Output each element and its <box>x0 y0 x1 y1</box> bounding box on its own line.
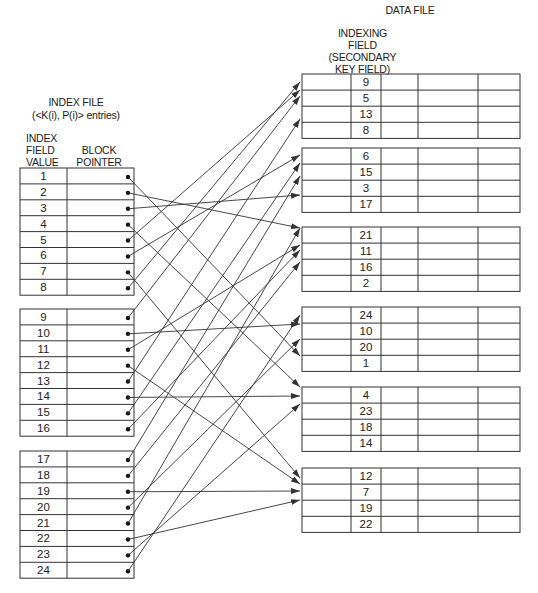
pointer-arrow <box>128 245 300 350</box>
record-key-value: 14 <box>360 437 373 449</box>
data-file-blocks: 951386153172111162241020142318141271922 <box>302 74 520 532</box>
data-block: 95138 <box>302 74 520 138</box>
index-field-value: 1 <box>40 170 46 182</box>
record-key-value: 7 <box>363 486 369 498</box>
index-field-value: 5 <box>40 234 46 246</box>
index-field-value: 24 <box>37 564 50 576</box>
pointer-arrow <box>128 119 300 382</box>
pointer-arrow <box>128 193 300 228</box>
index-field-value: 20 <box>37 501 50 513</box>
record-key-value: 24 <box>360 309 373 321</box>
pointer-arrow <box>128 396 300 397</box>
record-key-value: 17 <box>360 198 373 210</box>
record-key-value: 21 <box>360 229 373 241</box>
pointer-arrow <box>128 250 300 429</box>
data-block: 2111162 <box>302 227 520 291</box>
index-field-value: 15 <box>37 406 50 418</box>
pointer-arrow <box>128 82 300 288</box>
index-field-value: 7 <box>40 265 46 277</box>
index-field-value: 21 <box>37 517 50 529</box>
index-field-value: 19 <box>37 485 50 497</box>
record-key-value: 6 <box>363 150 369 162</box>
record-key-value: 13 <box>360 108 373 120</box>
record-key-value: 10 <box>360 325 373 337</box>
record-key-value: 22 <box>360 518 373 530</box>
record-key-value: 11 <box>360 245 372 257</box>
index-field-value: 14 <box>37 390 50 402</box>
pointer-arrow <box>128 155 300 256</box>
pointer-arrow <box>128 491 300 492</box>
secondary-index-diagram: 123456789101112131415161718192021222324 … <box>0 0 538 593</box>
record-key-value: 15 <box>360 166 373 178</box>
pointer-arrow <box>128 225 300 387</box>
index-field-value: 6 <box>40 249 46 261</box>
record-key-value: 8 <box>363 124 369 136</box>
index-field-value: 16 <box>37 422 50 434</box>
index-field-value: 12 <box>37 359 50 371</box>
record-key-value: 2 <box>363 277 369 289</box>
record-key-value: 20 <box>360 341 373 353</box>
record-key-value: 3 <box>363 182 369 194</box>
record-key-value: 16 <box>360 261 373 273</box>
index-block: 910111213141516 <box>20 309 134 436</box>
record-key-value: 5 <box>363 92 369 104</box>
data-block: 615317 <box>302 148 520 212</box>
pointer-arrow <box>128 339 300 508</box>
record-key-value: 18 <box>360 421 373 433</box>
index-field-value: 8 <box>40 281 46 293</box>
record-key-value: 1 <box>363 357 369 369</box>
index-field-value: 23 <box>37 548 50 560</box>
index-field-value: 11 <box>38 343 50 355</box>
record-key-value: 19 <box>360 502 373 514</box>
index-field-value: 9 <box>40 311 46 323</box>
data-block: 1271922 <box>302 468 520 532</box>
index-block: 1718192021222324 <box>20 451 134 578</box>
index-field-value: 3 <box>40 202 46 214</box>
record-key-value: 12 <box>360 470 373 482</box>
record-key-value: 23 <box>360 405 373 417</box>
pointer-arrows <box>128 82 300 571</box>
index-field-value: 10 <box>37 327 50 339</box>
pointer-arrow <box>128 366 300 484</box>
index-block: 12345678 <box>20 168 134 295</box>
index-field-value: 22 <box>37 532 50 544</box>
pointer-arrow <box>128 176 300 460</box>
data-block: 4231814 <box>302 387 520 451</box>
record-key-value: 9 <box>363 76 369 88</box>
data-block: 2410201 <box>302 307 520 371</box>
record-key-value: 4 <box>363 389 370 401</box>
index-field-value: 18 <box>37 469 50 481</box>
index-field-value: 17 <box>37 453 50 465</box>
index-field-value: 4 <box>40 218 47 230</box>
index-field-value: 13 <box>37 375 50 387</box>
index-file-tables: 123456789101112131415161718192021222324 <box>20 168 134 578</box>
index-field-value: 2 <box>40 186 46 198</box>
